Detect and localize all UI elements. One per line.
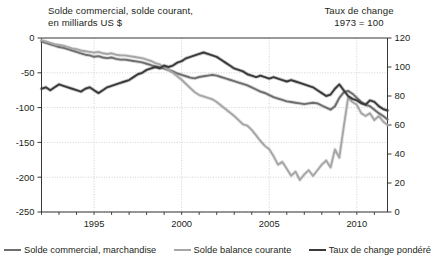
chart-legend: Solde commercial, marchandise Solde bala… [0, 240, 435, 260]
legend-label-trade-balance: Solde commercial, marchandise [24, 245, 156, 255]
svg-text:-150: -150 [16, 137, 35, 148]
legend-item-trade-balance: Solde commercial, marchandise [4, 245, 156, 255]
svg-text:120: 120 [395, 32, 411, 43]
legend-label-exchange-rate: Taux de change pondéré [329, 245, 431, 255]
svg-text:0: 0 [395, 206, 400, 217]
legend-swatch-trade-balance [4, 249, 21, 252]
svg-text:20: 20 [395, 177, 405, 188]
svg-text:100: 100 [395, 61, 411, 72]
legend-item-exchange-rate: Taux de change pondéré [309, 245, 431, 255]
chart-plot: 0-50-100-150-200-25012010080604020019952… [0, 0, 435, 240]
svg-text:40: 40 [395, 148, 405, 159]
svg-text:-200: -200 [16, 172, 35, 183]
legend-label-current-account: Solde balance courante [194, 245, 292, 255]
svg-text:60: 60 [395, 119, 405, 130]
legend-item-current-account: Solde balance courante [174, 245, 292, 255]
svg-text:0: 0 [29, 32, 34, 43]
chart-title-right: Taux de change 1973 = 100 [300, 5, 418, 29]
svg-text:80: 80 [395, 90, 405, 101]
svg-text:2000: 2000 [171, 218, 192, 229]
legend-swatch-current-account [174, 249, 191, 252]
svg-text:-100: -100 [16, 102, 35, 113]
svg-text:-50: -50 [21, 67, 35, 78]
svg-text:2010: 2010 [346, 218, 367, 229]
svg-text:-250: -250 [16, 206, 35, 217]
svg-text:1995: 1995 [84, 218, 105, 229]
svg-text:2005: 2005 [259, 218, 280, 229]
chart-title-left: Solde commercial, solde courant, en mill… [48, 5, 193, 29]
chart-figure: Solde commercial, solde courant, en mill… [0, 0, 435, 260]
legend-swatch-exchange-rate [309, 249, 326, 252]
